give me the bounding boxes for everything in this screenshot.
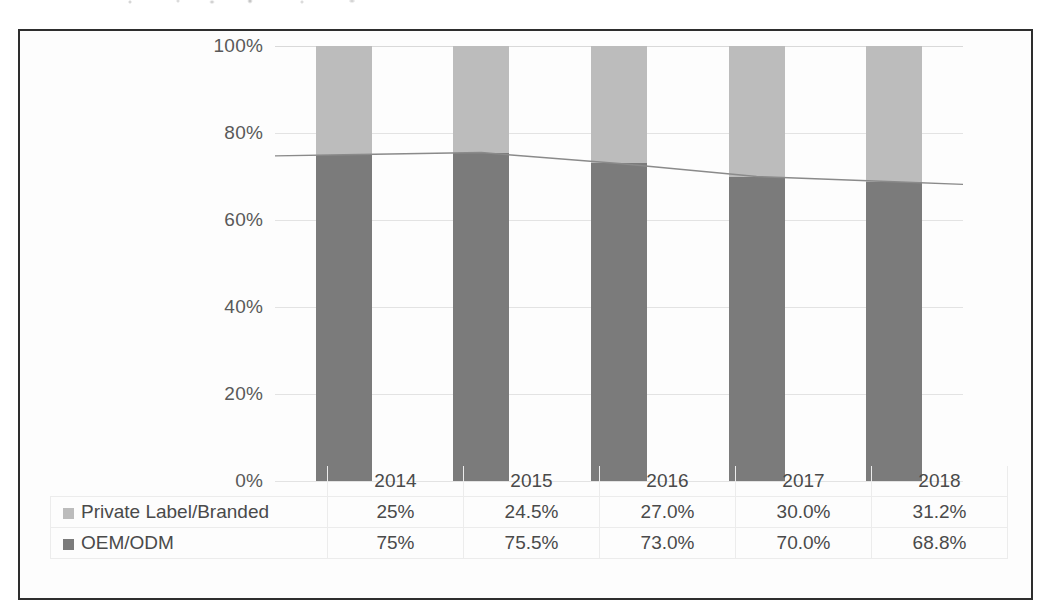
table-cell-value: 73.0% <box>600 528 736 559</box>
y-axis-tick-label: 100% <box>214 35 263 57</box>
table-year-header-2014: 2014 <box>328 466 464 497</box>
table-cell-value: 70.0% <box>736 528 872 559</box>
table-cell-value: 75% <box>328 528 464 559</box>
stacked-bar <box>729 46 785 481</box>
bar-segment-oem-odm <box>729 177 785 482</box>
bar-segment-private-label <box>316 46 372 155</box>
bar-column-2018 <box>866 46 922 481</box>
y-axis-tick-label: 60% <box>224 209 263 231</box>
bar-segment-private-label <box>591 46 647 163</box>
table-corner-cell <box>51 466 328 497</box>
table-header-row: 20142015201620172018 <box>51 466 1008 497</box>
legend-swatch-icon <box>63 508 74 519</box>
stacked-bar <box>866 46 922 481</box>
table-year-header-2017: 2017 <box>736 466 872 497</box>
bar-column-2017 <box>729 46 785 481</box>
bar-segment-oem-odm <box>316 155 372 481</box>
bar-segment-private-label <box>866 46 922 182</box>
table-cell-value: 68.8% <box>872 528 1008 559</box>
bar-segment-private-label <box>453 46 509 153</box>
stacked-bar <box>453 46 509 481</box>
table-cell-value: 25% <box>328 497 464 528</box>
table-year-header-2015: 2015 <box>464 466 600 497</box>
table-cell-value: 30.0% <box>736 497 872 528</box>
legend-label: OEM/ODM <box>81 532 174 553</box>
y-axis-tick-label: 40% <box>224 296 263 318</box>
legend-entry: Private Label/Branded <box>51 497 328 528</box>
bar-segment-oem-odm <box>453 153 509 481</box>
table-row: OEM/ODM75%75.5%73.0%70.0%68.8% <box>51 528 1008 559</box>
table-year-header-2018: 2018 <box>872 466 1008 497</box>
legend-swatch-icon <box>63 539 74 550</box>
table-row: Private Label/Branded25%24.5%27.0%30.0%3… <box>51 497 1008 528</box>
table-cell-value: 27.0% <box>600 497 736 528</box>
legend-label: Private Label/Branded <box>81 501 269 522</box>
data-table: 20142015201620172018 Private Label/Brand… <box>50 466 1008 559</box>
bar-column-2016 <box>591 46 647 481</box>
legend-entry: OEM/ODM <box>51 528 328 559</box>
stacked-bar <box>316 46 372 481</box>
table-cell-value: 75.5% <box>464 528 600 559</box>
y-axis-tick-label: 20% <box>224 383 263 405</box>
plot-area: 0%20%40%60%80%100% <box>275 46 963 481</box>
bar-column-2015 <box>453 46 509 481</box>
table-year-header-2016: 2016 <box>600 466 736 497</box>
table-body: Private Label/Branded25%24.5%27.0%30.0%3… <box>51 497 1008 559</box>
bar-segment-oem-odm <box>866 182 922 481</box>
bar-column-2014 <box>316 46 372 481</box>
stacked-bar <box>591 46 647 481</box>
bar-segment-oem-odm <box>591 163 647 481</box>
scan-artifact <box>120 0 420 7</box>
table-cell-value: 24.5% <box>464 497 600 528</box>
y-axis-tick-label: 80% <box>224 122 263 144</box>
bar-segment-private-label <box>729 46 785 177</box>
table-cell-value: 31.2% <box>872 497 1008 528</box>
chart-inner: 0%20%40%60%80%100% 20142015201620172018 … <box>20 31 1031 598</box>
chart-frame: 0%20%40%60%80%100% 20142015201620172018 … <box>18 29 1033 600</box>
